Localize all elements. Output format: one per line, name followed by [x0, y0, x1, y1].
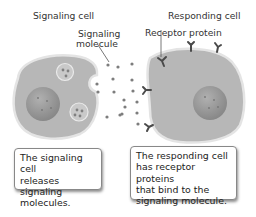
- receptor-protein-label: Receptor protein: [145, 28, 222, 38]
- signaling-cell: [14, 55, 98, 138]
- signaling-cell-caption: The signaling cell releases signaling mo…: [14, 148, 102, 190]
- responding-cell-label: Responding cell: [168, 11, 240, 21]
- signaling-molecule-label-line2: molecule: [76, 39, 118, 49]
- caption-line: has receptor proteins: [136, 161, 231, 184]
- caption-line: that bind to the: [136, 184, 231, 195]
- caption-line: The responding cell: [136, 150, 231, 161]
- caption-line: signaling molecule.: [136, 195, 231, 206]
- caption-line: The signaling cell: [20, 152, 96, 175]
- nucleus: [193, 86, 227, 120]
- responding-cell-caption: The responding cell has receptor protein…: [130, 146, 237, 200]
- signaling-cell-label: Signaling cell: [33, 11, 94, 21]
- caption-line: molecules.: [20, 197, 96, 208]
- signaling-molecules: [95, 62, 139, 125]
- caption-line: releases signaling: [20, 175, 96, 198]
- nucleus: [26, 87, 60, 121]
